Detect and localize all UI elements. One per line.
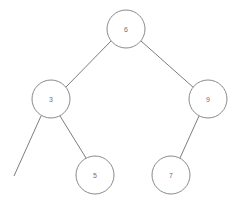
edge-3-to-5 [60,116,86,158]
tree-node-5[interactable]: 5 [76,156,114,194]
edge-6-to-9 [141,41,194,88]
edge-6-to-3 [66,41,111,87]
tree-node-7[interactable]: 7 [152,156,190,194]
node-label-6: 6 [124,26,128,33]
edge-3-to-empty-left [14,116,41,176]
node-layer: 6 3 9 5 7 [32,10,227,194]
tree-node-3[interactable]: 3 [32,80,70,118]
tree-node-6[interactable]: 6 [107,10,145,48]
node-label-3: 3 [49,96,53,103]
tree-node-9[interactable]: 9 [189,80,227,118]
node-label-5: 5 [93,172,97,179]
node-label-7: 7 [169,172,173,179]
tree-canvas: 6 3 9 5 7 [0,0,238,203]
binary-tree-diagram: 6 3 9 5 7 [0,0,238,203]
edge-9-to-7 [180,116,199,158]
node-label-9: 9 [206,96,210,103]
